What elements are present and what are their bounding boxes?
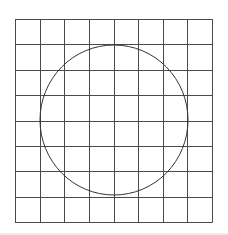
grid-circle-diagram [0,0,228,235]
square-grid [15,19,213,223]
